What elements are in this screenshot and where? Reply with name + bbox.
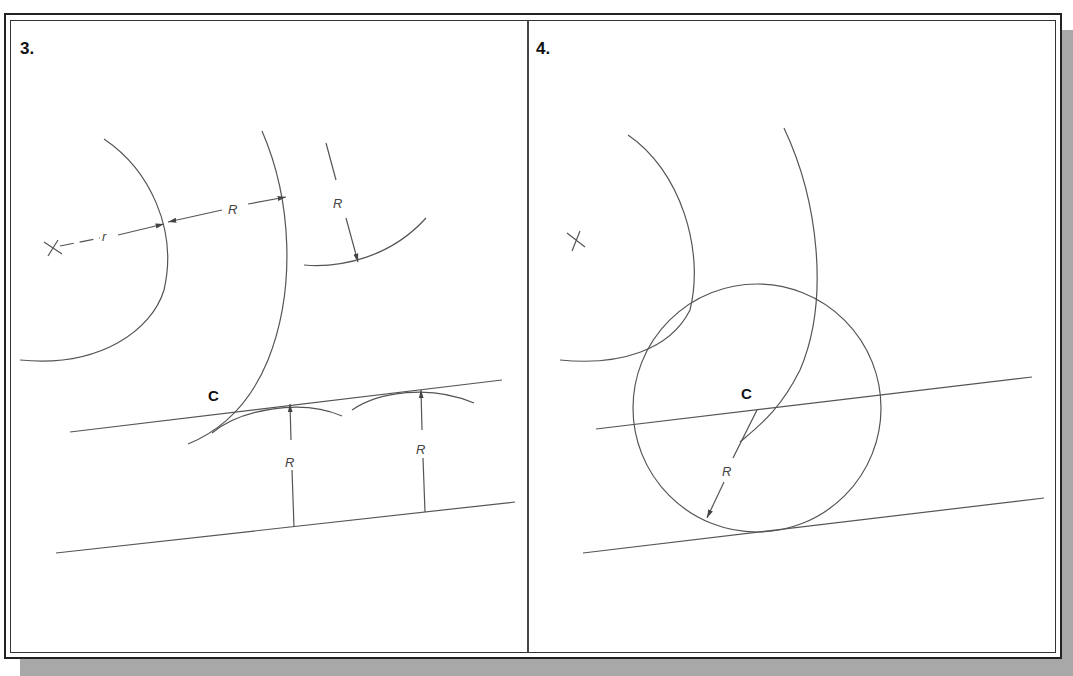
arc-sample-R <box>304 218 426 265</box>
arc-small-circle <box>560 135 694 361</box>
dim-label-R-3: R <box>285 455 294 470</box>
center-mark-icon <box>44 240 62 256</box>
point-C-label-panel-4: C <box>741 385 752 402</box>
point-C-label-panel-3: C <box>208 387 219 404</box>
dim-label-R-4: R <box>416 442 425 457</box>
panel-4-geometry <box>560 128 1044 553</box>
line-offset-upper <box>70 380 502 432</box>
line-base-lower <box>56 502 515 553</box>
dim-label-R-1: R <box>228 202 237 217</box>
arc-offset-r-plus-R <box>188 131 287 444</box>
arc-small-circle <box>20 139 168 361</box>
arc-R-2 <box>352 392 474 410</box>
line-offset-upper <box>596 377 1032 429</box>
dim-label-R-2: R <box>333 196 342 211</box>
dim-label-r: r <box>102 229 107 244</box>
construction-drawing: C C r R R R R R <box>0 0 1073 676</box>
arc-R-1 <box>212 407 342 433</box>
line-base-lower <box>583 498 1044 553</box>
dim-label-R-panel-4: R <box>722 464 731 479</box>
fillet-circle <box>633 284 881 532</box>
center-mark-icon <box>567 231 585 251</box>
panel-3-geometry <box>20 131 515 553</box>
